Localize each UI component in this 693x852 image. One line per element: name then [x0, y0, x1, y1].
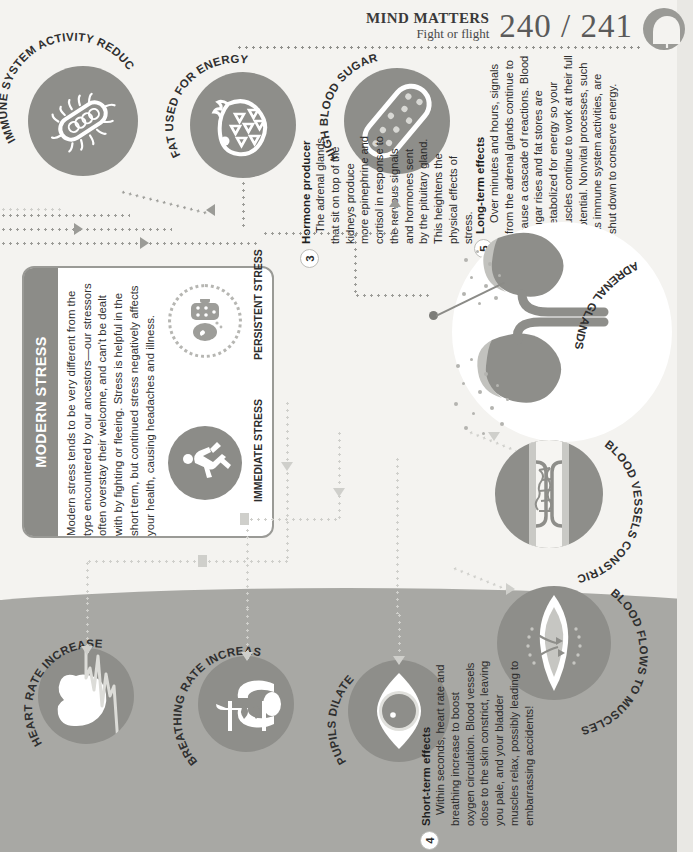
icon-circle-breathing	[198, 656, 294, 752]
connector-sugar-left	[262, 232, 398, 235]
connector-mid-1	[286, 400, 289, 562]
page-number-right: 241	[581, 8, 634, 44]
modern-stress-panel: MODERN STRESS Modern stress tends to be …	[22, 266, 274, 538]
head-gears-icon	[643, 8, 685, 50]
blurb-number-3: 3	[300, 249, 319, 268]
modern-stress-body: Modern stress tends to be very different…	[58, 268, 272, 536]
immediate-stress-icon-wrap: IMMEDIATE STRESS	[168, 426, 242, 500]
blurb-heading-5: Long-term effects	[474, 52, 486, 234]
connector-top-left-1	[0, 228, 172, 231]
background-right-strip	[677, 0, 693, 852]
connector-top-left-2	[0, 242, 260, 245]
heart-ecg-icon	[38, 648, 134, 744]
header-text-group: MIND MATTERS Fight or flight	[366, 6, 489, 42]
connector-mid-5h	[86, 560, 206, 563]
arrowhead-sugar-up	[389, 198, 401, 207]
blurb-text-5: Over minutes and hours, signals from the…	[487, 52, 620, 234]
constricted-vessel-icon	[495, 440, 603, 548]
blurb-text-4: Within seconds, heart rate and breathing…	[433, 660, 536, 826]
arrowhead-vessels	[488, 432, 500, 441]
blurb-heading-3: Hormone producer	[300, 136, 312, 244]
page-number-separator: /	[561, 8, 571, 44]
persistent-stress-icon-wrap: PERSISTENT STRESS	[168, 284, 242, 358]
arrowhead-breathing	[241, 652, 253, 661]
page-number-left: 240	[499, 8, 552, 44]
modern-stress-title: MODERN STRESS	[33, 336, 49, 468]
icon-circle-blood-vessels	[495, 440, 603, 548]
arrowhead-top-left-2	[140, 237, 149, 249]
modern-stress-text: Modern stress tends to be very different…	[60, 270, 178, 538]
blurb-hormone-producer: 3 Hormone producer The adrenal glands th…	[300, 136, 475, 268]
connector-trunk-to-node	[354, 294, 432, 297]
connector-top-left-3	[0, 214, 130, 217]
running-figure-icon	[168, 426, 242, 500]
arrowhead-muscles	[506, 583, 515, 595]
connector-mid-2h	[248, 518, 340, 521]
modern-stress-icon-group: PERSISTENT STRESS	[162, 268, 266, 536]
connector-mid-3	[396, 456, 399, 614]
connector-fat-down	[242, 180, 245, 228]
kidneys-adrenal-icon	[452, 222, 672, 442]
blurb-heading-4: Short-term effects	[420, 660, 432, 826]
immediate-stress-label: IMMEDIATE STRESS	[252, 399, 264, 502]
connector-mid-4	[246, 520, 249, 608]
icon-circle-immune	[28, 66, 138, 176]
page-header: MIND MATTERS Fight or flight 240 / 241	[366, 6, 685, 50]
lungs-icon	[205, 668, 287, 740]
arrowhead-mid-3	[333, 488, 345, 497]
connector-mid-5	[86, 560, 89, 602]
icon-circle-fat	[190, 72, 296, 178]
persistent-stress-label: PERSISTENT STRESS	[252, 249, 264, 360]
fat-cell-icon	[206, 88, 280, 162]
infographic-page: MIND MATTERS Fight or flight 240 / 241	[0, 0, 693, 852]
page-numbers: 240 / 241	[499, 6, 633, 43]
desk-worker-icon	[168, 284, 242, 358]
arrowhead-pupils	[393, 656, 405, 665]
arrowhead-top-left-1	[74, 223, 83, 235]
connector-bottom-rail	[0, 208, 64, 211]
connector-mid-2	[338, 430, 341, 520]
connector-trunk-right	[354, 232, 357, 296]
page-subtitle: Fight or flight	[366, 26, 489, 42]
arrowhead-mid-4	[281, 462, 293, 471]
modern-stress-title-bar: MODERN STRESS	[24, 268, 58, 536]
arrowhead-heart	[81, 646, 93, 655]
icon-circle-heart	[38, 648, 134, 744]
blurb-short-term-effects: 4 Short-term effects Within seconds, hea…	[420, 660, 536, 850]
page-title: MIND MATTERS	[366, 10, 489, 27]
arrowhead-immune-out	[206, 204, 215, 216]
bacteria-icon	[44, 82, 122, 160]
blurb-number-4: 4	[420, 831, 439, 850]
header-dotted-rule	[236, 46, 640, 49]
